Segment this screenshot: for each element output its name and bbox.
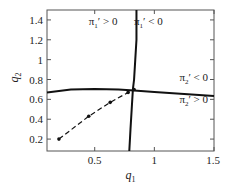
plot-area: 0.511.50.20.40.60.811.21.4π1′ > 0π1′ < 0… xyxy=(7,10,220,184)
y-tick-label: 1.4 xyxy=(29,14,43,26)
x-tick-label: 1 xyxy=(152,154,158,166)
boundary-curve xyxy=(129,10,136,151)
y-tick-label: 0.2 xyxy=(29,133,43,145)
region-label: π1′ < 0 xyxy=(134,15,163,30)
path-marker xyxy=(87,114,91,118)
path-marker xyxy=(126,91,130,95)
x-tick-label: 1.5 xyxy=(206,154,220,166)
path-marker xyxy=(132,88,136,92)
iteration-path xyxy=(59,89,134,139)
y-tick-label: 1 xyxy=(38,54,44,66)
x-axis-label: q1 xyxy=(126,168,136,184)
y-tick-label: 0.6 xyxy=(29,93,43,105)
path-marker xyxy=(57,137,61,141)
chart: 0.511.50.20.40.60.811.21.4π1′ > 0π1′ < 0… xyxy=(0,0,232,189)
region-label: π2′ > 0 xyxy=(179,93,208,108)
y-tick-label: 0.8 xyxy=(29,74,43,86)
region-label: π1′ > 0 xyxy=(89,15,118,30)
y-tick-label: 0.4 xyxy=(29,113,43,125)
y-tick-label: 1.2 xyxy=(29,34,43,46)
x-tick-label: 0.5 xyxy=(88,154,102,166)
path-marker xyxy=(108,101,112,105)
y-axis-label: q2 xyxy=(7,73,23,83)
region-label: π2′ < 0 xyxy=(179,71,208,86)
